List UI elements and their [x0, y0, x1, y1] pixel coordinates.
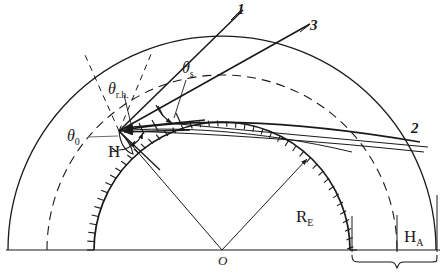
- label-ray-2: 2: [411, 121, 419, 136]
- radius-line-RE: [222, 159, 307, 250]
- radius-line-to-H: [124, 136, 222, 250]
- theta0-leader-line: [88, 136, 118, 137]
- HA-measure-brace: [352, 255, 437, 268]
- theta-0-subscript: 0: [75, 136, 80, 147]
- theta-rh-subscript: r.h.: [116, 89, 129, 100]
- theta-s-subscript: s: [190, 68, 194, 79]
- refraction-geometry-figure: 1 3 2 θr.h. θs θ0 H RE HA O: [0, 0, 445, 273]
- theta-0-symbol: θ: [67, 127, 75, 144]
- HA-subscript: A: [416, 237, 423, 248]
- label-theta-0: θ0: [67, 128, 80, 147]
- label-atmosphere-height: HA: [404, 228, 424, 248]
- HA-tick-guides: [352, 195, 437, 252]
- label-earth-radius: RE: [296, 208, 313, 228]
- ray-line-3: [119, 24, 310, 131]
- dashed-layer-arc: [47, 75, 397, 250]
- ray-line-1: [119, 10, 243, 131]
- RE-main: R: [296, 207, 307, 226]
- label-theta-s: θs: [182, 60, 194, 79]
- theta-s-symbol: θ: [182, 59, 190, 76]
- RE-subscript: E: [307, 217, 313, 228]
- label-theta-rh: θr.h.: [108, 81, 129, 100]
- label-point-H: H: [108, 143, 120, 160]
- label-ray-3: 3: [310, 18, 318, 33]
- label-ray-1: 1: [237, 2, 245, 17]
- ray-line-2-tangent: [119, 131, 424, 152]
- label-origin: O: [218, 254, 227, 267]
- HA-main: H: [404, 227, 416, 246]
- theta-rh-symbol: θ: [108, 80, 116, 97]
